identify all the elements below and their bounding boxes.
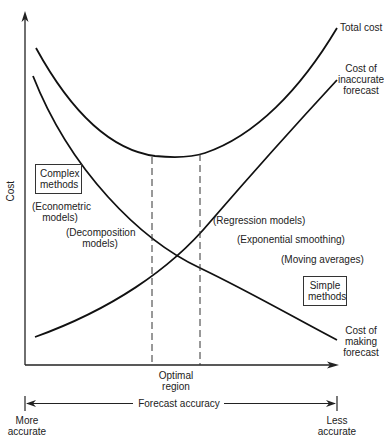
simple-label-line2: methods xyxy=(308,291,342,302)
total-cost-curve xyxy=(36,28,337,157)
simple-methods-box: Simple methods xyxy=(303,276,347,306)
making-label-line1: Cost of xyxy=(338,325,384,336)
less-line2: accurate xyxy=(316,426,358,437)
less-accurate-label: Less accurate xyxy=(316,415,358,437)
cost-of-inaccurate-forecast-label: Cost of inaccurate forecast xyxy=(338,63,384,96)
moving-averages-label: (Moving averages) xyxy=(281,254,364,265)
more-line2: accurate xyxy=(6,426,48,437)
making-label-line2: making xyxy=(338,336,384,347)
decomposition-line2: models) xyxy=(66,238,134,249)
inaccurate-label-line2: inaccurate xyxy=(338,74,384,85)
complex-label-line1: Complex xyxy=(40,168,77,179)
making-label-line3: forecast xyxy=(338,347,384,358)
y-axis-label: Cost xyxy=(5,182,16,202)
decomposition-models-label: (Decomposition models) xyxy=(66,227,134,249)
forecast-accuracy-label: Forecast accuracy xyxy=(134,398,224,409)
econometric-line1: (Econometric xyxy=(32,201,88,212)
less-line1: Less xyxy=(316,415,358,426)
simple-label-line1: Simple xyxy=(308,280,342,291)
econometric-line2: models) xyxy=(32,212,88,223)
decomposition-line1: (Decomposition xyxy=(66,227,134,238)
regression-models-label: (Regression models) xyxy=(213,215,305,226)
complex-methods-box: Complex methods xyxy=(35,164,82,194)
more-line1: More xyxy=(6,415,48,426)
inaccurate-label-line1: Cost of xyxy=(338,63,384,74)
optimal-line2: region xyxy=(150,381,202,392)
complex-label-line2: methods xyxy=(40,179,77,190)
optimal-region-label: Optimal region xyxy=(150,370,202,392)
econometric-models-label: (Econometric models) xyxy=(32,201,88,223)
exponential-smoothing-label: (Exponential smoothing) xyxy=(237,234,345,245)
inaccurate-label-line3: forecast xyxy=(338,85,384,96)
optimal-line1: Optimal xyxy=(150,370,202,381)
cost-of-making-forecast-label: Cost of making forecast xyxy=(338,325,384,358)
total-cost-label: Total cost xyxy=(340,22,382,33)
more-accurate-label: More accurate xyxy=(6,415,48,437)
